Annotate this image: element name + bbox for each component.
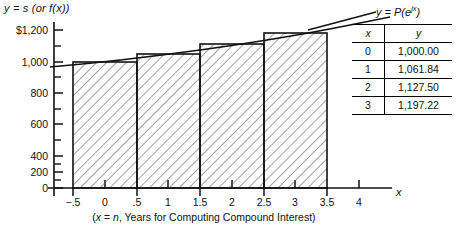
x-tick-label-4: 4 <box>344 196 374 208</box>
table-cell-x: 0 <box>352 43 385 61</box>
table-header-x: x <box>352 25 385 43</box>
table-cell-y: 1,000.00 <box>385 43 453 61</box>
table-cell-y: 1,197.22 <box>385 97 453 115</box>
table-cell-x: 1 <box>352 61 385 79</box>
table-header-y: y <box>385 25 453 43</box>
y-tick-label-1200: $1,200 <box>2 24 48 36</box>
table-row: 2 1,127.50 <box>352 79 452 97</box>
x-caption-rest: , Years for Computing Compound Interest) <box>119 211 316 223</box>
x-tick-label-half: .5 <box>122 196 152 208</box>
x-axis-caption: (x = n, Years for Computing Compound Int… <box>54 211 354 223</box>
table-row: 3 1,197.22 <box>352 97 452 115</box>
curve-equation-label: y = P(ejx) <box>376 4 420 18</box>
y-tick-label-800: 800 <box>2 87 48 99</box>
x-tick-label-1: 1 <box>153 196 183 208</box>
bar-3 <box>264 33 327 188</box>
curve-label-tail: ) <box>417 6 421 18</box>
bar-series <box>73 33 327 188</box>
y-tick-label-600: 600 <box>2 118 48 130</box>
table-header-row: x y <box>352 25 452 43</box>
x-tick-label-3-5: 3.5 <box>312 196 342 208</box>
y-tick-label-200: 200 <box>2 166 48 178</box>
curve-label-base: y = P(e <box>376 6 411 18</box>
x-tick-label-neg-half: −.5 <box>58 196 88 208</box>
bar-2 <box>200 44 264 188</box>
values-table: x y 0 1,000.00 1 1,061.84 2 1,127.50 3 1… <box>352 24 452 115</box>
table-row: 1 1,061.84 <box>352 61 452 79</box>
x-axis-symbol: x <box>396 186 402 198</box>
x-tick-label-2: 2 <box>217 196 247 208</box>
table-cell-x: 2 <box>352 79 385 97</box>
bar-1 <box>137 54 200 188</box>
x-tick-label-2-5: 2.5 <box>249 196 279 208</box>
y-tick-label-1000: 1,000 <box>2 56 48 68</box>
compound-interest-figure: y = s (or f(x)) x $1,200 1,000 800 600 4… <box>0 0 457 233</box>
x-tick-label-3: 3 <box>280 196 310 208</box>
y-tick-label-400: 400 <box>2 150 48 162</box>
table-cell-y: 1,127.50 <box>385 79 453 97</box>
x-caption-equals: = <box>101 211 113 223</box>
bar-0 <box>73 62 137 188</box>
x-tick-label-1-5: 1.5 <box>185 196 215 208</box>
table-cell-x: 3 <box>352 97 385 115</box>
x-tick-label-0: 0 <box>90 196 120 208</box>
table-cell-y: 1,061.84 <box>385 61 453 79</box>
table-row: 0 1,000.00 <box>352 43 452 61</box>
y-axis-title: y = s (or f(x)) <box>4 2 70 14</box>
y-tick-label-0: 0 <box>2 182 48 194</box>
